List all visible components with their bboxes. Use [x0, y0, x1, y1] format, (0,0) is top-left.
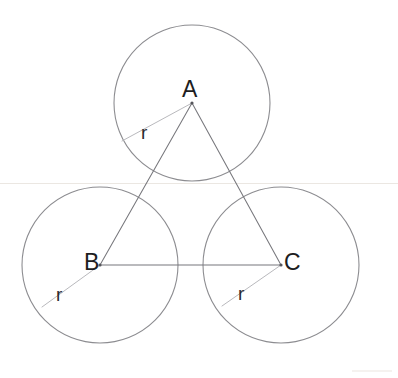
vertex-label-a: A — [182, 78, 197, 101]
radius-label-a: r — [141, 123, 147, 142]
radius-label-c: r — [238, 284, 244, 303]
geometry-figure: A B C r r r — [0, 0, 398, 378]
vertex-label-c: C — [284, 251, 301, 274]
radius-label-b: r — [56, 285, 62, 304]
radius-segment-c — [222, 265, 281, 306]
vertex-dot-c — [279, 263, 282, 266]
figure-canvas — [0, 0, 398, 378]
vertex-label-b: B — [84, 251, 99, 274]
